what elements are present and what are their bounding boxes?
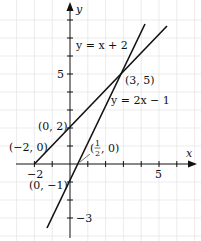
y-axis-label: y: [75, 3, 83, 16]
point-label-0-2: (0, 2): [38, 120, 68, 133]
equation-label-2: y = 2x − 1: [110, 94, 170, 107]
svg-text:(: (: [90, 142, 94, 155]
point-label-half-0: ( 1 2 , 0): [90, 139, 119, 158]
svg-text:2: 2: [95, 149, 100, 158]
x-axis-label: x: [186, 147, 193, 160]
x-axis-arrow-icon: [188, 161, 197, 168]
point-label-0-neg1: (0, −1): [29, 179, 68, 192]
grid: [0, 0, 201, 241]
point-label-neg2-0: (−2, 0): [9, 141, 48, 154]
equation-label-1: y = x + 2: [75, 39, 128, 52]
graph: y x −2 5 5 −3 y = x + 2 y = 2x − 1 (3, 5…: [0, 0, 201, 241]
y-axis-arrow-icon: [67, 2, 74, 11]
tick-x-5: 5: [155, 168, 162, 181]
tick-y-5: 5: [57, 68, 64, 81]
tick-y-neg3: −3: [76, 212, 92, 225]
point-label-3-5: (3, 5): [125, 74, 155, 87]
svg-text:1: 1: [95, 139, 100, 148]
svg-text:, 0): , 0): [101, 142, 119, 155]
